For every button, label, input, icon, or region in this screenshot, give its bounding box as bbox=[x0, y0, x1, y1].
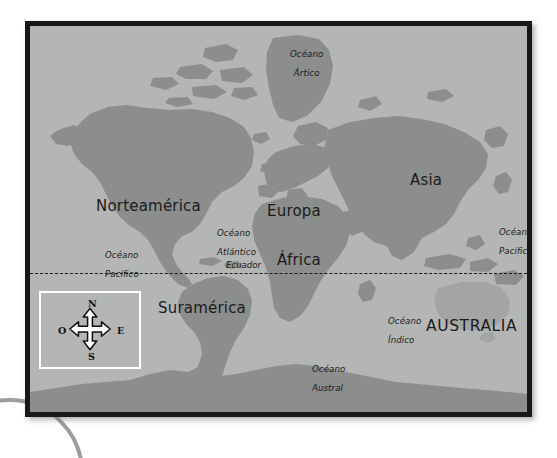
compass-label-east: E bbox=[117, 325, 124, 336]
compass-label-north: N bbox=[88, 298, 97, 309]
compass-rose: N S E O bbox=[39, 291, 141, 369]
world-map-page: Norteamérica Suramérica Europa África As… bbox=[0, 0, 557, 458]
compass-label-south: S bbox=[88, 351, 95, 362]
equator-line bbox=[30, 273, 527, 274]
map-frame: Norteamérica Suramérica Europa África As… bbox=[25, 21, 532, 417]
compass-label-west: O bbox=[58, 325, 66, 336]
